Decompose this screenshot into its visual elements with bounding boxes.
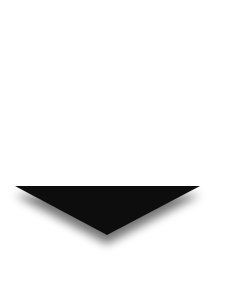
- down-triangle-arrow-icon: [0, 0, 246, 306]
- canvas: [0, 0, 246, 306]
- arrow-shape: [15, 186, 200, 235]
